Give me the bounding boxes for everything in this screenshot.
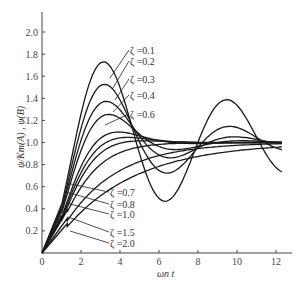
x-tick-label: 8 <box>196 256 201 267</box>
x-tick-label: 6 <box>157 256 162 267</box>
legend-label: ζ =0.3 <box>130 74 155 86</box>
x-tick-label: 10 <box>232 256 242 267</box>
y-tick-label: 0.8 <box>26 159 39 170</box>
legend-leader <box>105 114 129 125</box>
legend-leader <box>110 50 129 78</box>
legend-label: ζ =2.0 <box>110 238 135 250</box>
y-tick-label: 1.4 <box>26 93 39 104</box>
y-tick-label: 1.8 <box>26 49 39 60</box>
legend-labels: ζ =0.1ζ =0.2ζ =0.3ζ =0.4ζ =0.6ζ =0.7ζ =0… <box>110 45 155 250</box>
legend-label: ζ =0.7 <box>110 187 135 199</box>
y-tick-label: 0.6 <box>26 181 39 192</box>
legend-leader <box>68 217 109 232</box>
step-response-chart: 024681012 0.20.40.60.81.01.21.41.61.82.0… <box>0 0 305 287</box>
curves <box>42 62 282 253</box>
x-tick-label: 12 <box>271 256 281 267</box>
y-tick-label: 1.2 <box>26 115 39 126</box>
y-tick-label: 2.0 <box>26 27 39 38</box>
y-tick-label: 1.0 <box>26 137 39 148</box>
y-tick-label: 0.2 <box>26 225 39 236</box>
response-curve-0.2 <box>42 84 282 253</box>
y-tick-label: 1.6 <box>26 71 39 82</box>
x-tick-label: 2 <box>79 256 84 267</box>
legend-leader <box>70 231 109 243</box>
y-tick-label: 0.4 <box>26 203 39 214</box>
legend-label: ζ =0.6 <box>130 109 155 121</box>
y-axis-title: ψ/Km(A) , ψ(B) <box>15 105 27 168</box>
x-tick-label: 4 <box>118 256 123 267</box>
response-curve-0.3 <box>42 101 282 253</box>
x-tick-label: 0 <box>40 256 45 267</box>
legend-label: ζ =0.2 <box>130 56 155 68</box>
legend-label: ζ =0.4 <box>130 90 155 102</box>
x-axis-title: ωn t <box>157 268 175 279</box>
legend-label: ζ =1.0 <box>110 209 135 221</box>
